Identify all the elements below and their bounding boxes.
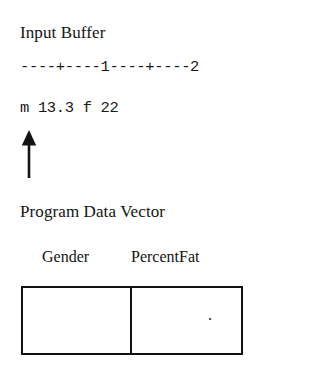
- input-buffer-data-line: m 13.3 f 22: [20, 101, 118, 117]
- column-header-gender: Gender: [42, 249, 89, 265]
- pdv-value-percentfat: .: [208, 307, 212, 323]
- column-header-percentfat: PercentFat: [131, 249, 199, 265]
- input-buffer-column-ruler: ----+----1----+----2: [20, 60, 199, 76]
- pdv-cell-percentfat: .: [132, 288, 241, 353]
- program-data-vector-title: Program Data Vector: [20, 203, 165, 220]
- sas-input-buffer-pdv-figure: Input Buffer ----+----1----+----2 m 13.3…: [0, 0, 310, 372]
- up-arrow-icon: [18, 130, 40, 178]
- program-data-vector-table: .: [21, 286, 243, 355]
- pdv-cell-gender: [23, 288, 132, 353]
- input-buffer-title: Input Buffer: [20, 24, 105, 41]
